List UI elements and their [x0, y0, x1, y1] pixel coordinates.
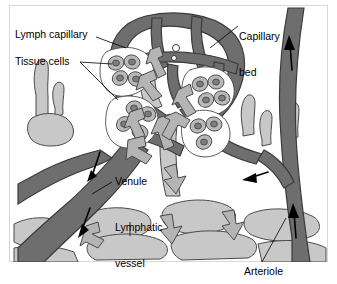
label-lymphatic-vessel: Lymphatic vessel [115, 197, 162, 284]
interstitial-space-4 [182, 110, 230, 157]
label-lymphatic-line2: vessel [115, 257, 162, 269]
label-arteriole: Arteriole [244, 265, 283, 277]
cell-nucleus [145, 111, 152, 117]
label-lymph-capillary: Lymph capillary [15, 28, 88, 40]
cell-nucleus [129, 59, 136, 65]
lymph-mesh-right-lower [171, 231, 256, 260]
capillary-fenestration-2 [172, 56, 177, 61]
cell-nucleus [197, 81, 204, 87]
cell-nucleus [219, 95, 226, 101]
capillary-fenestration-1 [173, 45, 180, 52]
cell-nucleus [117, 75, 124, 81]
cell-nucleus [203, 97, 210, 103]
tissue-finger-right-2 [260, 111, 272, 146]
label-capillary-bed-line2: bed [239, 66, 280, 78]
label-capillary-bed-line1: Capillary [239, 30, 280, 42]
label-tissue-cells: Tissue cells [15, 55, 69, 67]
cell-nucleus [113, 60, 120, 66]
cell-nucleus [211, 121, 218, 127]
diagram-canvas [0, 0, 337, 284]
lymphatic-capillary-diagram: Lymph capillary Tissue cells Capillary b… [0, 0, 337, 284]
label-lymphatic-line1: Lymphatic [115, 221, 162, 233]
label-capillary-bed: Capillary bed [239, 6, 280, 102]
cell-nucleus [195, 123, 202, 129]
lymph-capillary-finger-1 [34, 59, 48, 120]
label-venule: Venule [115, 175, 147, 187]
cell-nucleus [201, 139, 208, 145]
cell-nucleus [213, 79, 220, 85]
lymph-capillary-base [28, 114, 74, 147]
